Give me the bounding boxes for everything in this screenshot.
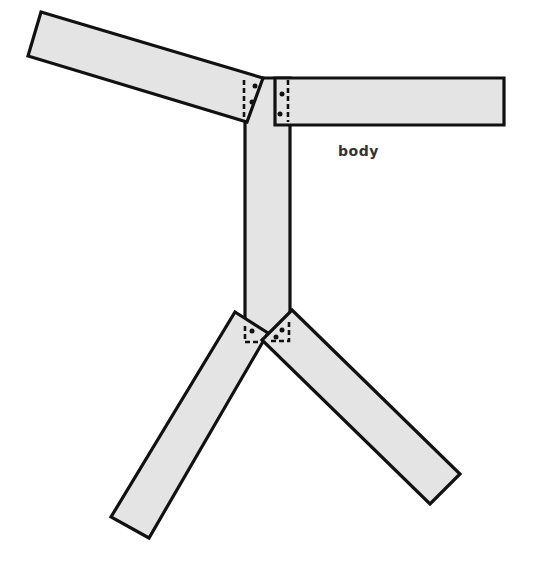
left-arm	[28, 12, 263, 122]
right-arm	[275, 78, 504, 125]
stick-figure-diagram	[0, 0, 542, 584]
left-leg	[111, 312, 268, 538]
body-label: body	[338, 143, 379, 159]
right-leg	[262, 310, 460, 504]
